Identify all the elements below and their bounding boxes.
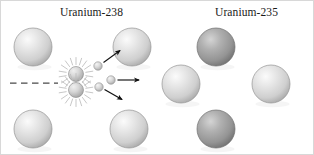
emitted-neutron-down xyxy=(95,83,122,100)
atom-u238-mid-right xyxy=(162,65,200,107)
atom-u238-mid-far-right xyxy=(252,65,290,107)
emitted-neutron-up xyxy=(94,51,120,71)
atoms-layer xyxy=(14,28,290,152)
atom-u235-bottom-right xyxy=(197,110,235,152)
atom-u238-bottom-mid xyxy=(110,110,148,152)
fission-fragment-lower xyxy=(59,74,93,107)
fission-fragments-layer xyxy=(59,58,93,107)
atom-u238-top-mid xyxy=(113,28,151,70)
label-uranium-238: Uranium-238 xyxy=(60,7,123,19)
atom-u238-bottom-left xyxy=(14,110,52,152)
atom-u238-top-left xyxy=(14,28,52,70)
diagram-canvas xyxy=(1,1,314,155)
atom-u235-top-right xyxy=(197,28,235,70)
emitted-neutron-right xyxy=(107,76,139,84)
label-uranium-235: Uranium-235 xyxy=(215,7,278,19)
fission-diagram-figure: Uranium-238 Uranium-235 xyxy=(0,0,314,155)
